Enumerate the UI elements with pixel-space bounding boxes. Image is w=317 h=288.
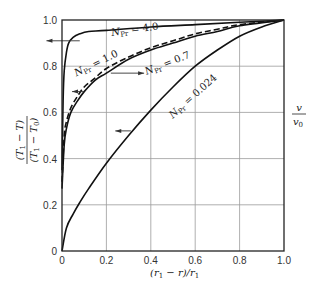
y-tick: 0 [51, 246, 57, 257]
chart: NPr = 4.0NPr = 1.0NPr = 0.7NPr = 0.024 0… [0, 0, 317, 288]
x-axis-label: (r1 − r)/r1 [150, 267, 199, 280]
y-tick: 0.4 [43, 154, 57, 165]
x-tick: 0.4 [144, 255, 158, 266]
arrowhead-icon [72, 90, 78, 94]
x-tick: 1.0 [277, 255, 291, 266]
curve-label: NPr = 0.7 [142, 49, 192, 79]
x-tick: 0.2 [99, 255, 113, 266]
svg-text:(T1 − T0): (T1 − T0) [28, 117, 41, 162]
svg-text:(T1 − T): (T1 − T) [14, 120, 27, 160]
x-tick: 0 [59, 255, 65, 266]
y-tick: 0.2 [43, 200, 57, 211]
y-axis-label: (T1 − T) (T1 − T0) [14, 116, 41, 164]
y-tick: 0.6 [43, 107, 57, 118]
y-tick: 0.8 [43, 61, 57, 72]
y-tick: 1.0 [43, 15, 57, 26]
y-tick-labels: 00.20.40.60.81.0 [43, 15, 57, 257]
svg-text:v0: v0 [293, 116, 303, 129]
x-tick: 0.8 [233, 255, 247, 266]
curve-label: NPr = 0.024 [166, 72, 220, 123]
x-tick: 0.6 [188, 255, 202, 266]
right-axis-label: v v0 [292, 102, 306, 129]
arrowhead-icon [115, 129, 121, 133]
arrows [46, 39, 144, 133]
curve-n-pr-1-0 [62, 20, 284, 182]
x-tick-labels: 00.20.40.60.81.0 [59, 255, 291, 266]
arrowhead-icon [46, 39, 52, 43]
svg-text:v: v [296, 102, 302, 113]
curve-n-pr-0-7 [62, 20, 284, 189]
arrowhead-icon [138, 71, 144, 75]
curve-label: NPr = 4.0 [110, 20, 160, 40]
